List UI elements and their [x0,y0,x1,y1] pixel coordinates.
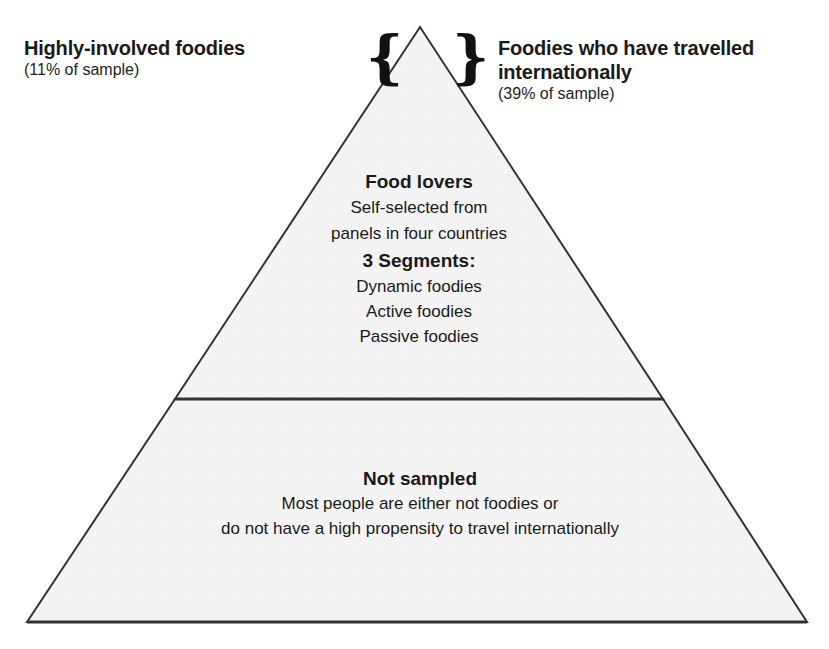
segment-item: Active foodies [366,300,472,324]
bottom-tier-heading: Not sampled [363,467,477,491]
right-label-title-line1: Foodies who have travelled [498,36,754,60]
bottom-tier-desc-line2: do not have a high propensity to travel … [221,517,619,541]
top-tier-desc-line1: Self-selected from [351,196,488,220]
right-label-title-line2: internationally [498,60,632,84]
left-label-title: Highly-involved foodies [24,36,245,60]
pyramid-diagram: { } Highly-involved foodies (11% of samp… [0,0,829,649]
left-brace-icon: { [366,28,403,86]
segments-heading: 3 Segments: [363,249,476,273]
right-label-subtitle: (39% of sample) [498,84,615,104]
segment-item: Dynamic foodies [356,275,482,299]
left-label-subtitle: (11% of sample) [24,60,139,80]
bottom-tier-desc-line1: Most people are either not foodies or [282,492,559,516]
top-tier-desc-line2: panels in four countries [331,222,507,246]
right-brace-icon: } [452,28,489,86]
top-tier-heading: Food lovers [365,170,473,194]
segment-item: Passive foodies [359,325,478,349]
